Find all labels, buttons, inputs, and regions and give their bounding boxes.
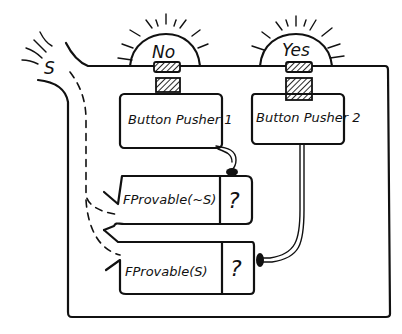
plug-icon xyxy=(256,253,264,267)
prover-s-result: ? xyxy=(230,256,242,281)
machine-enclosure xyxy=(38,43,390,317)
button-no xyxy=(154,62,180,72)
prover-not-s: FProvable(~S) ? xyxy=(104,176,252,230)
cable-pusher-1 xyxy=(216,146,238,176)
signal-label: S xyxy=(44,58,55,78)
prover-s: FProvable(S) ? xyxy=(104,230,254,294)
pusher-1-label: Button Pusher 1 xyxy=(128,112,233,127)
diagram-canvas: S No xyxy=(0,0,402,334)
signal-s: S xyxy=(22,32,55,78)
button-pusher-1: Button Pusher 1 xyxy=(120,78,233,148)
plug-icon xyxy=(226,168,238,176)
prover-not-s-label: FProvable(~S) xyxy=(123,192,216,207)
light-yes: Yes xyxy=(252,16,344,72)
prover-s-label: FProvable(S) xyxy=(125,264,208,279)
pusher-2-label: Button Pusher 2 xyxy=(256,110,361,125)
light-yes-label: Yes xyxy=(282,40,310,60)
cable-pusher-2 xyxy=(256,144,304,267)
button-yes xyxy=(286,62,312,72)
light-no: No xyxy=(118,14,208,72)
light-no-label: No xyxy=(152,42,175,62)
pusher-2-plunger xyxy=(286,78,312,100)
prover-not-s-result: ? xyxy=(228,188,240,213)
pusher-1-plunger xyxy=(156,78,180,92)
button-pusher-2: Button Pusher 2 xyxy=(252,78,361,144)
